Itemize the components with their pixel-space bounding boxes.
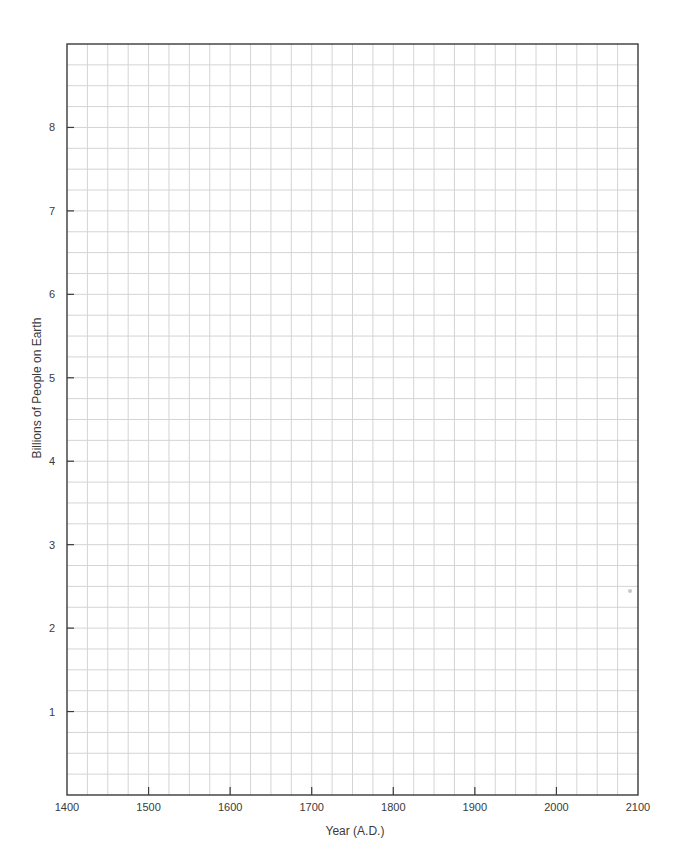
x-tick-label: 1700: [299, 801, 323, 813]
y-tick-label: 3: [49, 539, 55, 551]
x-tick-labels: 14001500160017001800190020002100: [55, 801, 650, 813]
y-tick-label: 2: [49, 622, 55, 634]
y-tick-label: 4: [49, 455, 55, 467]
y-tick-label: 8: [49, 121, 55, 133]
x-tick-label: 2100: [626, 801, 650, 813]
y-axis-title: Billions of People on Earth: [30, 318, 44, 459]
y-tick-label: 6: [49, 288, 55, 300]
x-tick-label: 1400: [55, 801, 79, 813]
chart-canvas: 14001500160017001800190020002100 1234567…: [0, 0, 682, 868]
y-tick-label: 5: [49, 372, 55, 384]
x-tick-label: 1500: [136, 801, 160, 813]
x-tick-label: 1900: [463, 801, 487, 813]
y-tick-label: 7: [49, 205, 55, 217]
scan-artifact-dot: [628, 589, 632, 593]
x-tick-label: 2000: [544, 801, 568, 813]
x-axis-title: Year (A.D.): [326, 824, 385, 838]
x-tick-label: 1800: [381, 801, 405, 813]
y-tick-label: 1: [49, 706, 55, 718]
y-tick-labels: 12345678: [49, 121, 55, 717]
population-chart: 14001500160017001800190020002100 1234567…: [0, 0, 682, 868]
x-tick-label: 1600: [218, 801, 242, 813]
grid-lines: [67, 44, 638, 795]
